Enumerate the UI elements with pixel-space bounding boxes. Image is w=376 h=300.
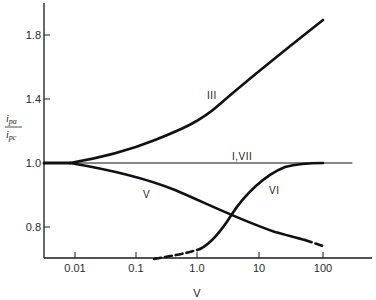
label-VI: VI bbox=[269, 185, 279, 196]
x-tick-label: 10 bbox=[253, 262, 265, 274]
chart: 1.8 1.4 1.0 0.8 0.01 0.1 1.0 10 100 V ip… bbox=[0, 0, 376, 300]
y-tick-labels: 1.8 1.4 1.0 0.8 bbox=[26, 29, 41, 233]
x-tick-label: 0.01 bbox=[64, 262, 85, 274]
x-tick-label: 1.0 bbox=[189, 262, 204, 274]
x-axis-title: V bbox=[193, 287, 201, 299]
y-axis-numerator: ipa bbox=[6, 113, 17, 126]
y-axis-title: ipa ipc bbox=[5, 113, 22, 142]
y-axis-denominator: ipc bbox=[6, 129, 17, 142]
x-tick-labels: 0.01 0.1 1.0 10 100 bbox=[64, 262, 332, 274]
curve-VI bbox=[200, 163, 323, 249]
y-tick-label: 1.8 bbox=[26, 29, 41, 41]
label-III: III bbox=[207, 90, 217, 101]
axes bbox=[44, 3, 372, 258]
y-tick-label: 0.8 bbox=[26, 221, 41, 233]
label-V: V bbox=[143, 189, 150, 200]
x-tick-label: 0.1 bbox=[128, 262, 143, 274]
curve-V-dashed bbox=[305, 240, 323, 246]
x-tick-label: 100 bbox=[314, 262, 332, 274]
label-I-VII: I,VII bbox=[232, 151, 252, 162]
y-tick-label: 1.4 bbox=[26, 93, 41, 105]
y-tick-label: 1.0 bbox=[26, 157, 41, 169]
curve-III bbox=[70, 20, 323, 163]
curves bbox=[44, 20, 352, 259]
